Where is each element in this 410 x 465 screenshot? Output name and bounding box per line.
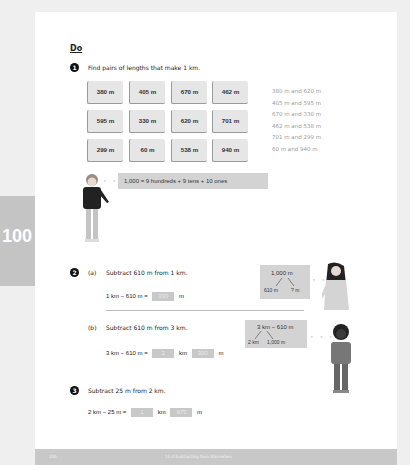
length-card: 405 m [129, 81, 165, 104]
length-card: 620 m [171, 110, 207, 133]
answer-box-km[interactable]: 1 [131, 408, 153, 417]
girl-illustration-2 [322, 262, 350, 310]
length-card: 380 m [87, 81, 123, 104]
footer-bar: 100 11-4 Subtracting from Kilometers [35, 449, 397, 465]
equation-left: 2 km − 25 m = [88, 409, 126, 415]
length-card: 595 m [87, 110, 123, 133]
answer-box-km[interactable]: 2 [152, 349, 174, 358]
unit-km: km [179, 350, 187, 356]
answer-pair: 60 m and 940 m [272, 144, 321, 156]
length-card: 299 m [87, 139, 123, 162]
bond-lines [270, 278, 300, 287]
question-3-prompt: Subtract 25 m from 2 km. [88, 387, 166, 394]
part-a-equation: 1 km − 610 m = 390 m [106, 292, 184, 301]
bond-whole: 1,000 m [271, 270, 293, 276]
part-a-label: (a) [88, 269, 96, 276]
number-bond-bubble: 1,000 m 610 m ? m [260, 265, 310, 299]
divider [106, 310, 304, 311]
boy-illustration [326, 322, 356, 394]
question-1-prompt: Find pairs of lengths that make 1 km. [88, 64, 200, 71]
length-card: 670 m [171, 81, 207, 104]
unit-km: km [158, 409, 166, 415]
question-number-3: 3 [70, 386, 79, 395]
answer-pair: 380 m and 620 m [272, 86, 321, 98]
answer-box-m[interactable]: 975 [170, 408, 192, 417]
bond-part-right: 1,000 m [267, 339, 285, 345]
answer-pair: 701 m and 299 m [272, 132, 321, 144]
answer-box-m[interactable]: 390 [192, 349, 214, 358]
equation-left: 3 km − 610 m = [106, 350, 148, 356]
question-3-equation: 2 km − 25 m = 1 km 975 m [88, 408, 202, 417]
equation-left: 1 km − 610 m = [106, 293, 148, 299]
length-card: 462 m [212, 81, 248, 104]
unit-m: m [197, 409, 202, 415]
unit: m [179, 293, 184, 299]
length-card: 940 m [212, 139, 248, 162]
length-card: 60 m [129, 139, 165, 162]
answer-pair: 405 m and 595 m [272, 98, 321, 110]
length-card: 330 m [129, 110, 165, 133]
length-card: 701 m [212, 110, 248, 133]
number-bond-bubble-2: 3 km − 610 m 2 km 1,000 m [245, 320, 307, 348]
page-number-tab: 100 [2, 226, 32, 247]
section-title: Do [70, 44, 82, 53]
unit-m: m [218, 350, 223, 356]
footer-page-number: 100 [49, 454, 57, 459]
bond-whole: 3 km − 610 m [257, 324, 294, 330]
part-b-equation: 3 km − 610 m = 2 km 390 m [106, 349, 223, 358]
length-card: 538 m [171, 139, 207, 162]
answer-pair: 462 m and 538 m [272, 121, 321, 133]
question-number-2: 2 [70, 268, 79, 277]
part-a-prompt: Subtract 610 m from 1 km. [106, 269, 187, 276]
answer-pair: 670 m and 330 m [272, 109, 321, 121]
bond-part-right: ? m [291, 287, 299, 293]
bond-part-left: 2 km [248, 339, 259, 345]
part-b-label: (b) [88, 324, 97, 331]
thought-bubble: 1,000 = 9 hundreds + 9 tens + 10 ones [118, 173, 268, 189]
answer-box[interactable]: 390 [152, 292, 174, 301]
part-b-prompt: Subtract 610 m from 3 km. [106, 324, 187, 331]
footer-title: 11-4 Subtracting from Kilometers [165, 454, 232, 459]
answer-list: 380 m and 620 m 405 m and 595 m 670 m an… [272, 86, 321, 155]
question-number-1: 1 [70, 63, 79, 72]
bond-part-left: 610 m [264, 287, 278, 293]
